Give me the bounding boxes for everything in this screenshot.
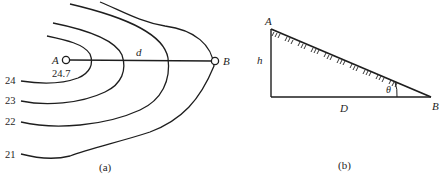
figure-b-labels: A h D θ B (b) xyxy=(257,15,439,172)
contour-line-22 xyxy=(21,4,169,126)
contour-line-21 xyxy=(21,2,214,158)
figure-b xyxy=(271,29,431,97)
vertex-b-label: B xyxy=(432,100,439,112)
point-a-label: A xyxy=(51,54,59,66)
ground-hatching xyxy=(272,32,397,87)
vertex-a-label: A xyxy=(264,15,272,27)
contour-label-22: 22 xyxy=(5,116,16,127)
contour-line-23 xyxy=(21,23,124,104)
figure-a-caption: (a) xyxy=(99,161,112,174)
height-label: h xyxy=(257,54,263,66)
slope-line xyxy=(271,29,431,97)
contour-label-23: 23 xyxy=(5,95,16,106)
contour-label-21: 21 xyxy=(5,149,16,160)
figure-a xyxy=(21,2,219,158)
figure-b-caption: (b) xyxy=(338,159,351,172)
angle-label: θ xyxy=(386,84,391,95)
contour-label-24: 24 xyxy=(5,75,16,86)
point-b-marker xyxy=(211,57,218,64)
base-label: D xyxy=(339,102,348,114)
distance-label: d xyxy=(136,46,142,58)
point-a-elevation: 24.7 xyxy=(52,68,70,79)
point-a-marker xyxy=(62,56,69,63)
diagram-canvas: A 24.7 d B 24 23 22 21 (a) A h D θ B (b) xyxy=(0,0,445,181)
point-b-label: B xyxy=(223,55,230,67)
figure-a-labels: A 24.7 d B 24 23 22 21 (a) xyxy=(5,46,230,174)
